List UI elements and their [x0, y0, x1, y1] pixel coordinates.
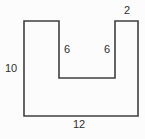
- dim-label-bottom-width: 12: [73, 119, 85, 130]
- dim-label-inner-left-depth: 6: [64, 44, 70, 55]
- dim-label-inner-right-depth: 6: [104, 44, 110, 55]
- diagram-canvas: 2 10 6 6 12: [0, 0, 145, 139]
- dim-label-left-height: 10: [5, 63, 17, 74]
- dim-label-top-right-width: 2: [124, 5, 130, 16]
- u-shape-outline: [24, 21, 138, 116]
